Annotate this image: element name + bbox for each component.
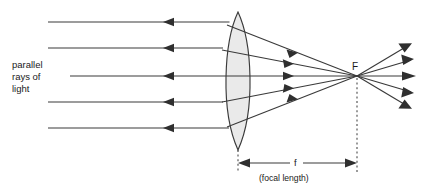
focal-length-symbol-label: f xyxy=(294,157,297,168)
incoming-ray-1 xyxy=(48,18,230,26)
ray-arrowhead-icon xyxy=(401,55,414,65)
dimension-arrow-left-icon xyxy=(238,159,250,168)
incoming-ray-5 xyxy=(48,124,229,132)
ray-arrowhead-icon xyxy=(283,84,294,93)
ray-arrowhead-icon xyxy=(163,72,174,80)
focal-length-caption-label: (focal length) xyxy=(259,173,309,183)
incoming-ray-3 xyxy=(70,72,220,80)
ray-arrowhead-icon xyxy=(398,43,412,52)
ray-arrowhead-icon xyxy=(163,18,174,26)
focal-length-dimension xyxy=(238,156,357,169)
incoming-rays-group xyxy=(48,18,230,132)
ray-arrowhead-icon xyxy=(283,72,294,80)
incoming-ray-4 xyxy=(48,98,223,106)
ray-arrowhead-icon xyxy=(398,100,412,109)
optics-diagram: parallel rays of light F f (focal length… xyxy=(0,0,424,189)
ray-arrowhead-icon xyxy=(402,71,416,80)
parallel-rays-label-line2: rays of xyxy=(12,71,41,82)
diverging-rays-group xyxy=(357,43,416,109)
parallel-rays-label-line1: parallel xyxy=(12,59,43,70)
ray-arrowhead-icon xyxy=(401,87,414,97)
dimension-arrow-right-icon xyxy=(345,159,357,168)
ray-arrowhead-icon xyxy=(283,59,294,68)
incoming-ray-2 xyxy=(48,44,223,52)
ray-arrowhead-icon xyxy=(163,98,174,106)
focal-point-label: F xyxy=(352,61,358,72)
ray-arrowhead-icon xyxy=(163,124,174,132)
converging-lens-diagram: parallel rays of light F f (focal length… xyxy=(0,0,424,189)
ray-arrowhead-icon xyxy=(163,44,174,52)
parallel-rays-label-line3: light xyxy=(12,83,30,94)
